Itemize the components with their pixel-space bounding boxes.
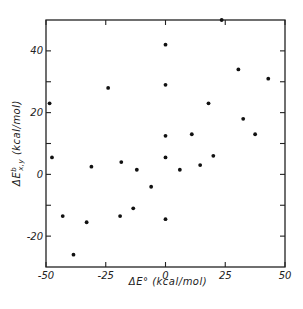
x-axis-label: ΔE° (kcal/mol) bbox=[128, 276, 207, 287]
data-point bbox=[178, 168, 182, 172]
data-point bbox=[72, 253, 76, 257]
y-tick-label: -20 bbox=[27, 231, 43, 242]
data-point bbox=[220, 18, 224, 22]
y-axis-label: ΔEbx,y (kcal/mol) bbox=[10, 100, 25, 187]
data-point bbox=[236, 68, 240, 72]
data-point bbox=[207, 101, 211, 105]
data-point bbox=[135, 168, 139, 172]
data-points bbox=[48, 18, 270, 256]
data-point bbox=[190, 132, 194, 136]
data-point bbox=[149, 185, 153, 189]
data-point bbox=[131, 206, 135, 210]
data-point bbox=[211, 154, 215, 158]
data-point bbox=[119, 160, 123, 164]
data-point bbox=[253, 132, 257, 136]
axis-ticks: -50-2502550-2002040 bbox=[27, 20, 292, 281]
data-point bbox=[90, 165, 94, 169]
y-tick-label: 40 bbox=[30, 45, 43, 56]
data-point bbox=[85, 220, 89, 224]
y-tick-label: 20 bbox=[30, 107, 43, 118]
data-point bbox=[61, 214, 65, 218]
data-point bbox=[164, 83, 168, 87]
data-point bbox=[164, 134, 168, 138]
data-point bbox=[48, 101, 52, 105]
x-tick-label: 25 bbox=[219, 270, 232, 281]
plot-frame bbox=[46, 20, 285, 267]
data-point bbox=[266, 77, 270, 81]
data-point bbox=[198, 163, 202, 167]
x-tick-label: 50 bbox=[279, 270, 292, 281]
data-point bbox=[241, 117, 245, 121]
y-tick-label: 0 bbox=[37, 169, 43, 180]
data-point bbox=[106, 86, 110, 90]
data-point bbox=[50, 155, 54, 159]
data-point bbox=[118, 214, 122, 218]
data-point bbox=[164, 155, 168, 159]
data-point bbox=[164, 43, 168, 47]
scatter-chart: -50-2502550-2002040 ΔE° (kcal/mol) ΔEbx,… bbox=[0, 0, 303, 309]
x-tick-label: -25 bbox=[98, 270, 114, 281]
x-tick-label: -50 bbox=[38, 270, 54, 281]
data-point bbox=[164, 217, 168, 221]
